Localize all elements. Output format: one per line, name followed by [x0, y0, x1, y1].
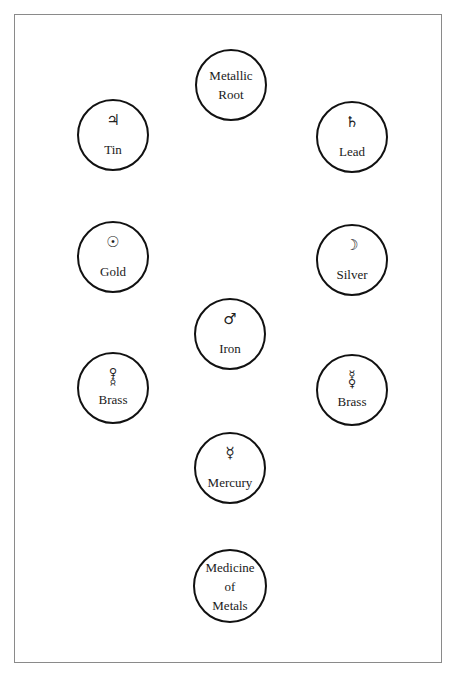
mercury-icon: ☿ [225, 445, 234, 463]
node-label: Gold [100, 264, 126, 280]
node-label: Root [218, 85, 243, 104]
node-label: Iron [219, 341, 241, 357]
sun-icon: ☉ [106, 234, 119, 252]
node-tin: ♃ Tin [77, 99, 149, 171]
node-iron: ♂ Iron [194, 298, 266, 370]
node-label: Mercury [208, 475, 253, 491]
moon-icon: ☽ [345, 237, 358, 255]
node-mercury: ☿ Mercury [194, 432, 266, 504]
node-label: Metals [212, 596, 247, 615]
node-gold: ☉ Gold [77, 221, 149, 293]
saturn-icon: ♄ [345, 114, 358, 132]
node-label: of [225, 577, 236, 596]
node-medicine-of-metals: Medicine of Metals [193, 549, 267, 623]
venus-mercury-icon: ♀ ☿ [109, 368, 117, 386]
node-label: Tin [104, 142, 122, 158]
node-metallic-root: Metallic Root [195, 49, 267, 121]
node-lead: ♄ Lead [316, 101, 388, 173]
node-label: Brass [99, 392, 128, 408]
node-brass-left: ♀ ☿ Brass [77, 352, 149, 424]
node-label: Brass [338, 394, 367, 410]
node-label: Metallic [209, 66, 252, 85]
mercury-venus-icon: ☿ ♀ [348, 370, 356, 388]
node-brass-right: ☿ ♀ Brass [316, 354, 388, 426]
mercury-icon: ☿ [110, 377, 117, 386]
venus-icon: ♀ [348, 379, 356, 388]
node-label: Medicine [205, 558, 254, 577]
jupiter-icon: ♃ [106, 112, 119, 130]
node-silver: ☽ Silver [316, 224, 388, 296]
node-label: Silver [336, 267, 367, 283]
mars-icon: ♂ [223, 311, 236, 329]
node-label: Lead [339, 144, 365, 160]
